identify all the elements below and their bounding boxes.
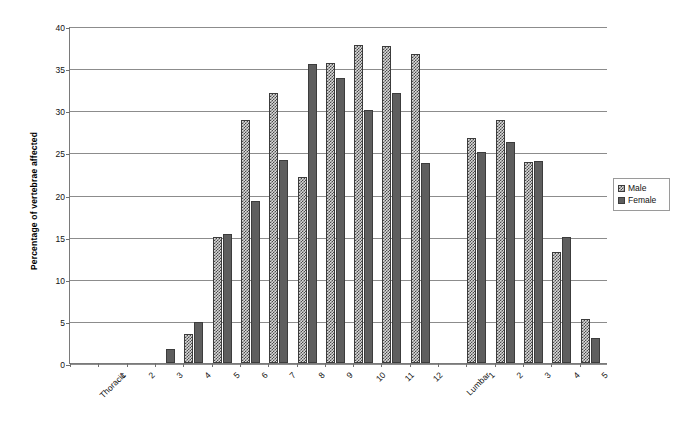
x-tick-label: 7: [288, 370, 298, 380]
x-tick-mark: [240, 363, 241, 367]
bar-male: [496, 120, 505, 363]
legend-label: Male: [628, 184, 646, 193]
gridline: 0: [70, 364, 607, 365]
bar-group: [297, 27, 325, 363]
x-tick-mark: [438, 363, 439, 367]
bar-male: [552, 252, 561, 363]
bar-group: [240, 27, 268, 363]
x-tick-mark: [127, 363, 128, 367]
x-tick-label: 8: [316, 370, 326, 380]
x-tick-label: 4: [203, 370, 213, 380]
y-tick-label: 40: [56, 23, 65, 33]
x-tick-mark: [410, 363, 411, 367]
x-tick-mark: [466, 363, 467, 367]
bar-group: [580, 27, 608, 363]
bar-group: [70, 27, 98, 363]
bar-female: [194, 322, 203, 363]
x-tick-mark: [381, 363, 382, 367]
bar-male: [354, 45, 363, 363]
y-tick-label: 5: [60, 318, 65, 328]
legend-item-male[interactable]: Male: [618, 183, 665, 194]
bar-male: [467, 138, 476, 363]
bar-male: [411, 54, 420, 363]
bar-female: [279, 160, 288, 363]
legend-swatch-female-icon: [618, 197, 625, 204]
bar-group: [155, 27, 183, 363]
bar-female: [591, 338, 600, 363]
x-tick-mark: [268, 363, 269, 367]
legend: MaleFemale: [613, 178, 670, 211]
bar-group: [353, 27, 381, 363]
x-tick-mark: [523, 363, 524, 367]
plot-area: 0510152025303540 Thoracic123456789101112…: [69, 27, 607, 364]
bar-group: [212, 27, 240, 363]
bar-male: [298, 177, 307, 363]
y-tick-label: 25: [56, 149, 65, 159]
bar-group: [98, 27, 126, 363]
x-tick-mark: [495, 363, 496, 367]
legend-swatch-male-icon: [618, 185, 625, 192]
bar-male: [241, 120, 250, 363]
x-tick-label: 5: [599, 370, 609, 380]
x-tick-label: 4: [571, 370, 581, 380]
x-tick-label: 2: [514, 370, 524, 380]
x-tick-mark: [98, 363, 99, 367]
bars-layer: [70, 27, 607, 363]
bar-female: [506, 142, 515, 363]
x-tick-label: 2: [146, 370, 156, 380]
x-tick-mark: [580, 363, 581, 367]
bar-male: [184, 334, 193, 363]
bar-male: [326, 63, 335, 363]
x-tick-mark: [297, 363, 298, 367]
bar-female: [336, 78, 345, 363]
x-tick-mark: [212, 363, 213, 367]
y-tick-label: 30: [56, 107, 65, 117]
x-tick-mark: [70, 363, 71, 367]
bar-male: [213, 237, 222, 363]
y-tick-label: 15: [56, 234, 65, 244]
bar-group: [466, 27, 494, 363]
bar-group: [495, 27, 523, 363]
bar-group: [127, 27, 155, 363]
legend-label: Female: [628, 196, 656, 205]
bar-female: [421, 163, 430, 363]
x-tick-mark: [325, 363, 326, 367]
bar-group: [381, 27, 409, 363]
y-tick-label: 10: [56, 276, 65, 286]
x-tick-label: 6: [259, 370, 269, 380]
bar-group: [268, 27, 296, 363]
bar-female: [534, 161, 543, 363]
bar-group: [523, 27, 551, 363]
x-tick-label: 5: [231, 370, 241, 380]
bar-chart: Percentage of vertebrae affected 0510152…: [0, 0, 683, 428]
bar-group: [551, 27, 579, 363]
y-tick-label: 0: [60, 360, 65, 370]
bar-group: [410, 27, 438, 363]
bar-female: [251, 201, 260, 363]
bar-group: [438, 27, 466, 363]
x-tick-label: 12: [431, 370, 445, 384]
x-tick-label: 3: [174, 370, 184, 380]
bar-male: [581, 319, 590, 363]
x-tick-label: 3: [543, 370, 553, 380]
x-tick-mark: [353, 363, 354, 367]
y-tick-label: 35: [56, 65, 65, 75]
bar-male: [382, 46, 391, 363]
x-tick-mark: [551, 363, 552, 367]
legend-item-female[interactable]: Female: [618, 195, 665, 206]
y-tick-label: 20: [56, 192, 65, 202]
bar-group: [183, 27, 211, 363]
bar-female: [562, 237, 571, 363]
bar-group: [325, 27, 353, 363]
x-tick-label: 10: [374, 370, 388, 384]
bar-female: [364, 110, 373, 363]
y-axis-title: Percentage of vertebrae affected: [29, 91, 39, 311]
bar-male: [524, 162, 533, 363]
bar-female: [166, 349, 175, 363]
x-tick-label: 9: [344, 370, 354, 380]
bar-female: [477, 152, 486, 363]
bar-male: [269, 93, 278, 363]
bar-female: [308, 64, 317, 363]
x-tick-mark: [155, 363, 156, 367]
x-tick-mark: [183, 363, 184, 367]
